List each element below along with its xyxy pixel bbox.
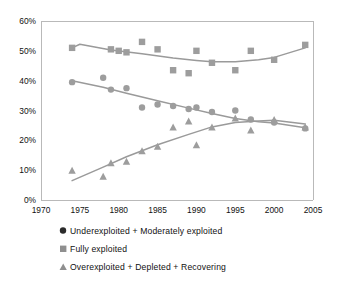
- y-tick-label-50: 50%: [19, 46, 36, 56]
- y-tick-label-60: 60%: [19, 16, 36, 26]
- data-point: [69, 79, 75, 85]
- data-point: [116, 48, 122, 54]
- data-point: [209, 60, 215, 66]
- data-point: [170, 103, 176, 109]
- x-tick-label-1995: 1995: [226, 205, 245, 215]
- data-point: [232, 107, 238, 113]
- data-point: [248, 48, 254, 54]
- legend-label-fully-exploited: Fully exploited: [70, 244, 127, 254]
- data-point: [232, 67, 238, 73]
- x-tick-label-1990: 1990: [187, 205, 206, 215]
- data-point: [100, 74, 106, 80]
- data-point: [123, 85, 129, 91]
- data-point: [193, 48, 199, 54]
- data-point: [185, 70, 191, 76]
- x-tick-label-1980: 1980: [109, 205, 128, 215]
- data-point: [69, 45, 75, 51]
- data-point: [154, 101, 160, 107]
- y-tick-label-0: 0%: [24, 195, 37, 205]
- fisheries-stock-status-chart: 60% 50% 40% 30% 20% 10% 0% 1970 1975 198…: [0, 0, 342, 284]
- data-point: [108, 46, 114, 52]
- data-point: [123, 49, 129, 55]
- legend-label-underexploited: Underexploited + Moderately exploited: [70, 226, 223, 236]
- data-point: [154, 46, 160, 52]
- x-tick-label-1975: 1975: [71, 205, 90, 215]
- y-tick-label-40: 40%: [19, 76, 36, 86]
- x-tick-label-1970: 1970: [32, 205, 51, 215]
- x-tick-label-1985: 1985: [148, 205, 167, 215]
- y-tick-label-10: 10%: [19, 165, 36, 175]
- y-tick-label-30: 30%: [19, 106, 36, 116]
- data-point: [209, 109, 215, 115]
- data-point: [108, 86, 114, 92]
- data-point: [139, 104, 145, 110]
- chart-figure: 60% 50% 40% 30% 20% 10% 0% 1970 1975 198…: [0, 0, 342, 284]
- y-tick-label-20: 20%: [19, 135, 36, 145]
- data-point: [185, 106, 191, 112]
- data-point: [139, 39, 145, 45]
- legend-marker-circle-icon: [60, 227, 66, 233]
- data-point: [193, 104, 199, 110]
- x-tick-label-2000: 2000: [265, 205, 284, 215]
- chart-background: [0, 0, 342, 284]
- legend-label-overexploited: Overexploited + Depleted + Recovering: [70, 262, 226, 272]
- data-point: [170, 67, 176, 73]
- x-tick-label-2005: 2005: [304, 205, 323, 215]
- legend-marker-square-icon: [60, 246, 66, 252]
- data-point: [271, 57, 277, 63]
- data-point: [302, 42, 308, 48]
